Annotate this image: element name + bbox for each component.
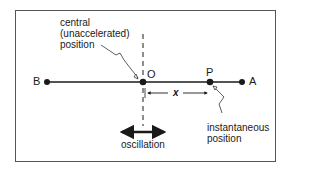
point-B-dot [44, 79, 50, 85]
point-A-label: A [249, 76, 256, 87]
point-O-label: O [147, 69, 156, 80]
point-A-dot [239, 79, 245, 85]
central-label-line-3: position [60, 39, 129, 50]
instantaneous-position-leader-line [214, 87, 224, 113]
instantaneous-position-label: instantaneous position [207, 122, 269, 144]
point-P-label: P [206, 67, 213, 78]
central-label-line-1: central [60, 17, 129, 28]
central-leader-arrowhead-icon [134, 74, 138, 79]
oscillation-label: oscillation [121, 139, 165, 150]
instant-label-line-1: instantaneous [207, 122, 269, 133]
point-B-label: B [33, 76, 40, 87]
central-label-line-2: (unaccelerated) [60, 28, 129, 39]
point-O-dot [140, 79, 147, 86]
central-position-label: central (unaccelerated) position [60, 17, 129, 50]
displacement-x-label: x [173, 87, 179, 98]
point-P-dot [207, 79, 214, 86]
instant-label-line-2: position [207, 133, 269, 144]
